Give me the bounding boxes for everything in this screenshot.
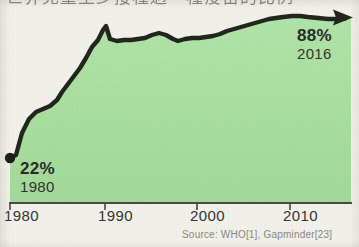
x-tick-label-2010: 2010 — [283, 208, 318, 224]
callout-end-value: 88% — [297, 27, 332, 45]
x-tick-label-1990: 1990 — [98, 208, 133, 224]
callout-start-year: 1980 — [20, 178, 55, 196]
chart-page: 世界兒童至少接種過一種疫苗的比例 — [0, 0, 359, 247]
callout-end-year: 2016 — [297, 45, 332, 63]
start-point-marker — [5, 153, 15, 163]
callout-end: 88% 2016 — [297, 27, 332, 63]
x-tick-label-2000: 2000 — [190, 208, 225, 224]
x-axis-ticks — [10, 203, 290, 210]
source-note: Source: WHO[1], Gapminder[23] — [182, 229, 332, 241]
x-tick-label-1980: 1980 — [4, 208, 39, 224]
callout-start-value: 22% — [20, 160, 55, 178]
callout-start: 22% 1980 — [20, 160, 55, 196]
